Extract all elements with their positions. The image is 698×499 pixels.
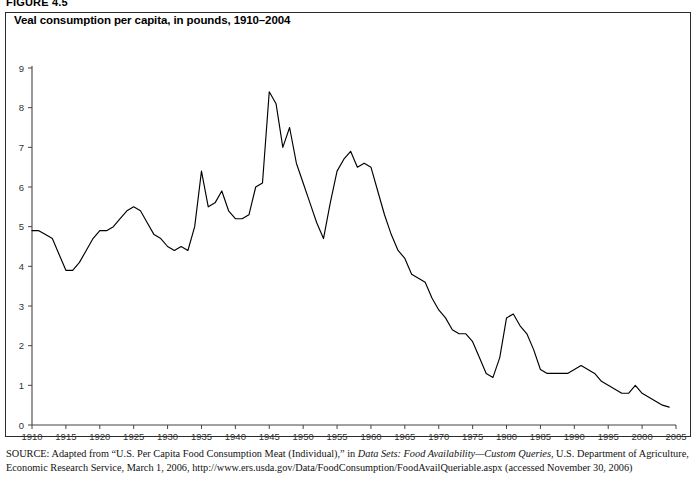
x-axis-tick-label: 1915: [55, 431, 76, 442]
y-axis-tick-label: 3: [19, 301, 24, 312]
y-axis-tick-label: 0: [19, 420, 24, 431]
x-axis-tick-label: 2000: [632, 431, 653, 442]
x-axis-ticks: 1910191519201925193019351940194519501955…: [21, 425, 686, 442]
x-axis-tick-label: 1920: [89, 431, 110, 442]
y-axis-tick-label: 9: [19, 63, 24, 74]
y-axis-tick-label: 7: [19, 142, 24, 153]
y-axis-tick-label: 6: [19, 182, 24, 193]
x-axis-tick-label: 1985: [530, 431, 551, 442]
x-axis-tick-label: 1960: [360, 431, 381, 442]
x-axis-tick-label: 1975: [462, 431, 483, 442]
y-axis-tick-label: 1: [19, 380, 24, 391]
y-axis-tick-label: 8: [19, 102, 24, 113]
figure-root: FIGURE 4.5 Veal consumption per capita, …: [0, 0, 698, 499]
x-axis-tick-label: 1990: [564, 431, 585, 442]
x-axis-tick-label: 1910: [21, 431, 42, 442]
x-axis-tick-label: 1955: [326, 431, 347, 442]
source-italic-title: Data Sets: Food Availability—Custom Quer…: [358, 448, 551, 459]
x-axis-tick-label: 1965: [394, 431, 415, 442]
x-axis-tick-label: 1940: [225, 431, 246, 442]
source-text-part1: Adapted from “U.S. Per Capita Food Consu…: [50, 448, 358, 459]
x-axis-tick-label: 1970: [428, 431, 449, 442]
source-label: SOURCE:: [6, 448, 50, 459]
x-axis-tick-label: 1945: [259, 431, 280, 442]
y-axis-tick-label: 2: [19, 340, 24, 351]
x-axis-tick-label: 2005: [665, 431, 686, 442]
y-axis-tick-label: 5: [19, 221, 24, 232]
x-axis-tick-label: 1930: [157, 431, 178, 442]
y-axis-ticks: 0123456789: [19, 63, 32, 431]
x-axis-tick-label: 1980: [496, 431, 517, 442]
x-axis-tick-label: 1995: [598, 431, 619, 442]
chart-axes: [32, 66, 676, 425]
chart-plot: 0123456789 19101915192019251930193519401…: [0, 0, 698, 499]
source-note: SOURCE: Adapted from “U.S. Per Capita Fo…: [6, 447, 692, 474]
y-axis-tick-label: 4: [19, 261, 24, 272]
x-axis-tick-label: 1950: [293, 431, 314, 442]
x-axis-tick-label: 1925: [123, 431, 144, 442]
data-series-line: [32, 92, 669, 407]
x-axis-tick-label: 1935: [191, 431, 212, 442]
